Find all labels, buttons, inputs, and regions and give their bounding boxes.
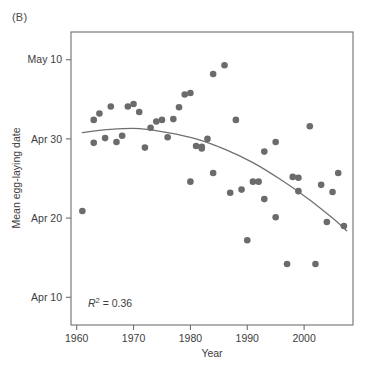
data-point [284, 261, 291, 268]
data-point [250, 178, 257, 185]
x-axis-ticks: 19601970198019902000 [65, 325, 316, 344]
data-point [335, 170, 342, 177]
y-tick-label: Apr 30 [31, 133, 62, 145]
data-point [164, 134, 171, 141]
data-point [255, 178, 262, 185]
r-squared-annotation: R2 = 0.36 [88, 296, 132, 309]
data-point [210, 170, 217, 177]
data-point [324, 219, 331, 226]
data-point [261, 196, 268, 203]
data-point [329, 189, 336, 196]
data-point [136, 109, 143, 116]
data-point [113, 139, 120, 146]
data-point [102, 135, 109, 142]
data-point [147, 125, 154, 132]
data-point [272, 139, 279, 146]
data-point [170, 116, 177, 123]
data-point [244, 237, 251, 244]
x-tick-label: 1980 [179, 332, 203, 344]
x-axis-title: Year [201, 347, 223, 359]
data-point [289, 174, 296, 181]
panel-label: (B) [12, 11, 27, 23]
x-tick-label: 1990 [236, 332, 260, 344]
x-tick-label: 1970 [122, 332, 146, 344]
data-point [204, 136, 211, 143]
data-point [142, 144, 149, 151]
data-point [198, 145, 205, 152]
data-point [306, 123, 313, 130]
data-point [187, 90, 194, 97]
data-point [261, 148, 268, 155]
data-point [187, 178, 194, 185]
data-point [312, 261, 319, 268]
r-squared-value: = 0.36 [100, 297, 133, 309]
x-tick-label: 1960 [65, 332, 89, 344]
data-point [221, 62, 228, 69]
data-point [238, 186, 245, 193]
data-point [176, 104, 183, 111]
data-point [233, 117, 240, 124]
data-point [96, 110, 103, 117]
data-point [341, 223, 348, 230]
data-point [210, 71, 217, 78]
y-tick-label: Apr 10 [31, 291, 62, 303]
scatter-plot: Apr 10Apr 20Apr 30May 10 196019701980199… [0, 0, 366, 372]
data-point [90, 140, 97, 147]
data-point [318, 182, 325, 189]
data-point [130, 101, 137, 108]
data-points [79, 62, 347, 267]
data-point [193, 143, 200, 150]
data-point [125, 103, 132, 110]
y-axis-title: Mean egg-laying date [10, 127, 22, 228]
y-axis-ticks: Apr 10Apr 20Apr 30May 10 [28, 53, 71, 303]
data-point [79, 208, 86, 215]
data-point [181, 91, 188, 98]
data-point [119, 132, 126, 139]
data-point [272, 214, 279, 221]
figure-panel-b: (B) Apr 10Apr 20Apr 30May 10 19601970198… [0, 0, 366, 372]
y-tick-label: Apr 20 [31, 212, 62, 224]
data-point [227, 189, 234, 196]
data-point [108, 103, 115, 110]
trendline [82, 128, 346, 230]
data-point [295, 174, 302, 181]
data-point [90, 117, 97, 124]
data-point [295, 188, 302, 195]
x-tick-label: 2000 [292, 332, 316, 344]
y-tick-label: May 10 [28, 53, 63, 65]
data-point [159, 117, 166, 124]
data-point [153, 118, 160, 125]
